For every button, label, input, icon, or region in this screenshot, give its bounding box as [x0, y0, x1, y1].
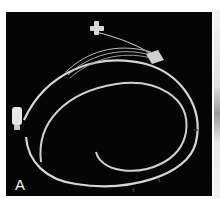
stopcock [90, 21, 104, 35]
photo-panel: A [6, 12, 212, 196]
panel-label: A [15, 177, 25, 193]
catheter-illustration [6, 12, 212, 196]
catheter-inner-loop [40, 83, 186, 171]
luer-connector [12, 107, 22, 130]
adjacent-panel-edge [214, 10, 220, 199]
